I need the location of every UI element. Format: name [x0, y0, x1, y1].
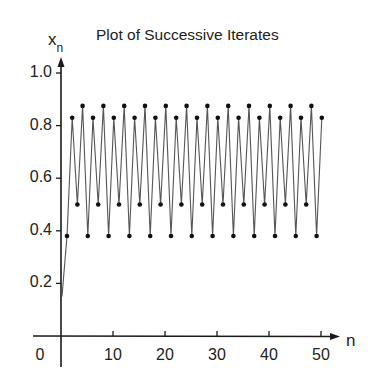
y-tick-label: 0.2: [12, 273, 52, 291]
data-point: [242, 202, 247, 207]
data-point: [112, 115, 117, 120]
x-tick-label: 50: [306, 346, 336, 364]
data-point: [70, 115, 75, 120]
y-tick-label: 0.6: [12, 168, 52, 186]
data-point: [101, 104, 106, 109]
x-tick-label: 20: [150, 346, 180, 364]
data-point: [309, 104, 314, 109]
data-point: [127, 234, 132, 239]
chart-title: Plot of Successive Iterates: [96, 26, 279, 44]
data-point: [299, 115, 304, 120]
x-tick-label: 40: [254, 346, 284, 364]
data-point: [143, 104, 148, 109]
x-tick-label: 30: [202, 346, 232, 364]
data-point: [86, 234, 91, 239]
data-point: [75, 202, 80, 207]
data-point: [320, 115, 325, 120]
data-point: [273, 234, 278, 239]
data-series: [62, 104, 324, 297]
data-point: [231, 234, 236, 239]
y-tick-label: 0.8: [12, 116, 52, 134]
data-point: [268, 104, 273, 109]
data-point: [252, 234, 257, 239]
data-point: [132, 115, 137, 120]
data-point: [314, 234, 319, 239]
x-axis-line: [33, 336, 333, 337]
data-point: [226, 104, 231, 109]
data-point: [117, 202, 122, 207]
data-point: [221, 202, 226, 207]
data-point: [174, 115, 179, 120]
data-point: [153, 115, 158, 120]
y-axis-label: xn: [48, 30, 63, 52]
data-point: [216, 115, 221, 120]
data-point: [294, 234, 299, 239]
y-axis-arrow-icon: [58, 57, 65, 67]
data-point: [304, 202, 309, 207]
data-point: [283, 202, 288, 207]
y-tick-label: 1.0: [12, 63, 52, 81]
data-point: [262, 202, 267, 207]
series-line: [62, 106, 322, 297]
data-point: [148, 234, 153, 239]
axes: [33, 57, 340, 367]
data-point: [179, 202, 184, 207]
data-point: [195, 115, 200, 120]
data-point: [96, 202, 101, 207]
data-point: [236, 115, 241, 120]
data-point: [278, 115, 283, 120]
data-point: [247, 104, 252, 109]
data-point: [158, 202, 163, 207]
data-point: [169, 234, 174, 239]
data-point: [122, 104, 127, 109]
data-point: [210, 234, 215, 239]
data-point: [80, 104, 85, 109]
plot-area: [0, 0, 378, 388]
data-point: [91, 115, 96, 120]
x-tick-label: 10: [98, 346, 128, 364]
data-point: [257, 115, 262, 120]
data-point: [288, 104, 293, 109]
data-point: [138, 202, 143, 207]
data-point: [65, 234, 70, 239]
data-point: [200, 202, 205, 207]
data-point: [190, 234, 195, 239]
x-axis-label: n: [346, 331, 355, 351]
x-axis-arrow-icon: [330, 333, 340, 340]
data-point: [205, 104, 210, 109]
data-point: [106, 234, 111, 239]
origin-label: 0: [25, 346, 55, 364]
data-point: [164, 104, 169, 109]
y-tick-label: 0.4: [12, 221, 52, 239]
data-point: [184, 104, 189, 109]
